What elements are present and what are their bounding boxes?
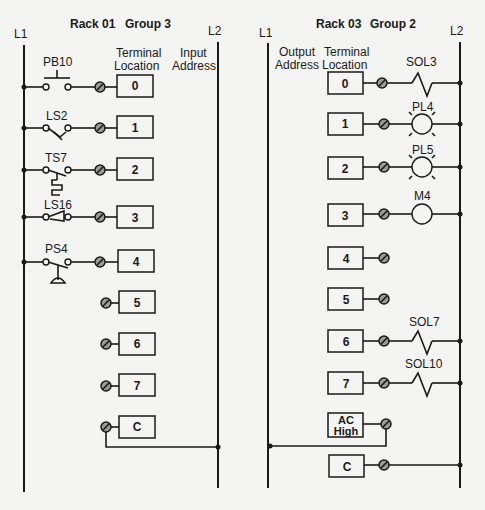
plc-io-wiring-diagram: Rack 01 Group 3 L1 L2 Terminal Location …: [0, 0, 485, 510]
terminal-number: 2: [342, 162, 349, 176]
device-label: SOL10: [405, 357, 443, 371]
terminal-screw-icon: [379, 378, 389, 388]
terminal-screw-icon: [95, 82, 105, 92]
solenoid-icon: [412, 73, 432, 96]
input-address-header-2: Address: [172, 59, 216, 73]
terminal-screw-icon: [379, 253, 389, 263]
terminal-number: 6: [343, 335, 350, 349]
temperature-switch-icon: [43, 167, 71, 195]
output-l1-label: L1: [259, 26, 273, 40]
device-label: PB10: [43, 55, 73, 69]
terminal-number: 4: [343, 252, 350, 266]
coil-icon: [412, 204, 432, 224]
input-row-2: TS7 2: [22, 151, 154, 195]
input-row-5: 5: [101, 291, 155, 313]
ac-high-feed-wire: [268, 429, 386, 446]
terminal-number: 0: [342, 77, 349, 91]
input-l2-label: L2: [208, 24, 222, 38]
terminal-number: 5: [134, 296, 141, 310]
terminal-number: 3: [342, 209, 349, 223]
input-row-7: 7: [101, 374, 155, 396]
terminal-label-line2: High: [334, 425, 359, 437]
output-row-1: 1 PL4: [328, 100, 463, 136]
terminal-screw-icon: [101, 381, 111, 391]
limit-switch-nc-icon: [43, 211, 71, 221]
input-row-common: C: [101, 416, 221, 450]
input-row-6: 6: [101, 333, 155, 355]
output-row-3: 3 M4: [328, 189, 463, 226]
output-row-common: C: [329, 455, 463, 477]
output-row-7: 7 SOL10: [328, 357, 463, 396]
terminal-screw-icon: [95, 257, 105, 267]
input-module: Rack 01 Group 3 L1 L2 Terminal Location …: [14, 17, 222, 492]
output-address-header-2: Address: [275, 58, 319, 72]
terminal-number: 2: [132, 163, 139, 177]
terminal-screw-icon: [95, 123, 105, 133]
terminal-number: 7: [343, 377, 350, 391]
terminal-number: C: [343, 460, 352, 474]
terminal-screw-icon: [95, 212, 105, 222]
solenoid-icon: [412, 331, 432, 354]
device-label: LS2: [46, 109, 68, 123]
terminal-screw-icon: [101, 422, 111, 432]
input-row-4: PS4 4: [22, 242, 155, 283]
terminal-number: 3: [132, 211, 139, 225]
limit-switch-icon: [43, 125, 71, 140]
device-label: PS4: [45, 242, 68, 256]
terminal-screw-icon: [379, 460, 389, 470]
terminal-number: 6: [134, 337, 141, 351]
output-row-ac-high: AC High: [268, 413, 392, 449]
terminal-screw-icon: [101, 339, 111, 349]
input-terminal-header-1: Terminal: [116, 46, 161, 60]
terminal-number: 4: [133, 255, 140, 269]
terminal-screw-icon: [379, 162, 389, 172]
device-label: PL4: [412, 100, 434, 114]
terminal-screw-icon: [101, 298, 111, 308]
pressure-switch-icon: [43, 259, 71, 283]
terminal-screw-icon: [379, 294, 389, 304]
input-l1-label: L1: [14, 27, 28, 41]
terminal-number: 7: [134, 379, 141, 393]
input-address-header-1: Input: [180, 46, 207, 60]
device-label: TS7: [45, 151, 67, 165]
terminal-number: 1: [342, 117, 349, 131]
output-rack-label: Rack 03: [316, 17, 362, 31]
output-group-label: Group 2: [370, 17, 416, 31]
output-l2-label: L2: [450, 24, 464, 38]
terminal-screw-icon: [379, 119, 389, 129]
output-terminal-header-1: Terminal: [324, 45, 369, 59]
device-label: SOL3: [406, 55, 437, 69]
device-label: LS16: [44, 198, 72, 212]
terminal-screw-icon: [379, 209, 389, 219]
output-terminal-header-2: Location: [322, 58, 367, 72]
pushbutton-icon: [43, 70, 71, 90]
pilot-light-icon: [409, 155, 435, 179]
pilot-light-icon: [409, 112, 435, 136]
output-row-2: 2 PL5: [328, 143, 463, 179]
output-module: Rack 03 Group 2 L1 L2 Output Address Ter…: [259, 17, 464, 488]
device-label: M4: [414, 189, 431, 203]
terminal-screw-icon: [381, 419, 391, 429]
output-row-6: 6 SOL7: [328, 315, 463, 354]
device-label: SOL7: [409, 315, 440, 329]
input-terminal-header-2: Location: [114, 59, 159, 73]
input-rack-label: Rack 01: [70, 17, 116, 31]
terminal-number: C: [133, 420, 142, 434]
terminal-number: 5: [343, 293, 350, 307]
input-row-3: LS16 3: [22, 198, 154, 228]
terminal-screw-icon: [95, 165, 105, 175]
output-row-5: 5: [328, 288, 389, 310]
terminal-number: 0: [132, 79, 139, 93]
terminal-number: 1: [132, 121, 139, 135]
output-row-4: 4: [328, 247, 389, 269]
input-row-1: LS2 1: [22, 109, 154, 140]
input-group-label: Group 3: [125, 17, 171, 31]
device-label: PL5: [412, 143, 434, 157]
terminal-screw-icon: [377, 78, 387, 88]
output-address-header-1: Output: [279, 45, 316, 59]
solenoid-icon: [412, 373, 432, 396]
terminal-screw-icon: [379, 336, 389, 346]
